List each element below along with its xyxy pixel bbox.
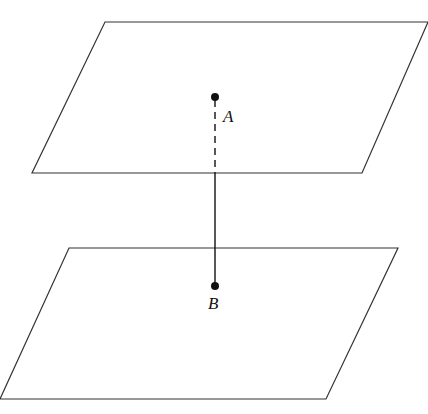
label-b: B bbox=[208, 294, 219, 313]
point-b bbox=[211, 282, 219, 290]
upper-plane bbox=[32, 22, 428, 173]
lower-plane bbox=[0, 248, 398, 399]
diagram-canvas: A B bbox=[0, 0, 428, 414]
label-a: A bbox=[222, 107, 234, 126]
point-a bbox=[211, 93, 219, 101]
